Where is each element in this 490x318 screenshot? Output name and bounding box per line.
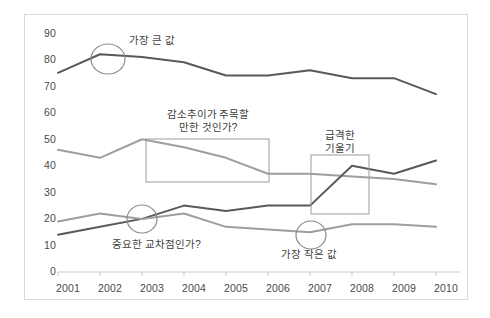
min-value-circle-marker — [296, 221, 326, 249]
annotation-decline-trend-line2: 만한 것인가? — [146, 121, 270, 134]
chart-drawing-surface — [0, 0, 490, 318]
annotation-steep-slope-line1: 급격한 — [311, 129, 369, 142]
line-chart-figure: 90 80 70 60 50 40 30 20 10 0 2001 2002 2… — [0, 0, 490, 318]
annotation-decline-trend-line1: 감소추이가 주목할 — [146, 108, 270, 121]
annotation-steep-slope: 급격한 기울기 — [311, 129, 369, 155]
axis-lines — [58, 272, 460, 276]
series-layer — [58, 54, 436, 235]
annotation-max-value: 가장 큰 값 — [129, 34, 175, 47]
chart-line-series-top-dark — [58, 54, 436, 94]
annotation-decline-trend: 감소추이가 주목할 만한 것인가? — [146, 108, 270, 134]
decline-trend-rectangle-marker — [146, 139, 269, 182]
annotation-min-value: 가장 작은 값 — [281, 248, 337, 261]
annotation-crossover: 중요한 교차점인가? — [112, 238, 201, 251]
chart-line-series-lower-gray — [58, 214, 436, 233]
chart-line-series-middle-gray — [58, 139, 436, 184]
annotation-steep-slope-line2: 기울기 — [311, 142, 369, 155]
max-value-circle-marker — [91, 44, 125, 74]
steep-slope-rectangle-marker — [311, 155, 369, 214]
